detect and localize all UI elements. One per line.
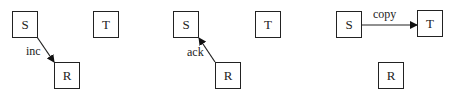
node-s-panel3: S [336,11,362,38]
node-r-panel1: R [54,62,80,89]
edge-label-ack: ack [187,45,204,60]
node-s-panel1: S [12,11,38,38]
node-t-panel2: T [255,11,281,38]
node-r-panel2: R [215,62,241,89]
node-r-panel3: R [378,62,404,89]
node-t-panel3: T [417,10,443,37]
edge-label-inc: inc [26,44,41,59]
node-s-panel2: S [173,11,199,38]
node-t-panel1: T [93,11,119,38]
edge-label-copy: copy [373,7,396,22]
